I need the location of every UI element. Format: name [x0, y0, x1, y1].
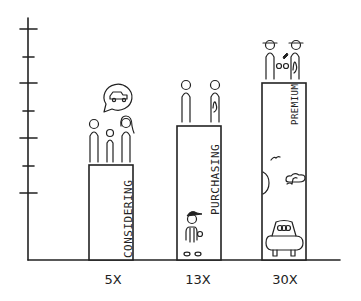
person-head-icon [211, 81, 220, 90]
person-body-icon [291, 53, 299, 79]
person-body-icon [211, 93, 219, 122]
couple-illustration [182, 81, 220, 123]
bar-label-considering: CONSIDERING [122, 180, 135, 258]
bar-considering: CONSIDERING [89, 165, 135, 260]
person-body-icon [122, 132, 130, 162]
hand-icon [293, 62, 297, 73]
premium-couple-illustration [263, 41, 303, 80]
x-tick-label-30x: 30X [272, 272, 298, 287]
glass-icon [284, 64, 289, 69]
child-body-icon [107, 140, 113, 162]
family-illustration [90, 84, 135, 162]
person-body-icon [182, 93, 190, 122]
bar-premium: PREMIUM [262, 83, 306, 260]
chart-canvas: CONSIDERING PURCHASING [0, 0, 361, 301]
bar-label-purchasing: PURCHASING [209, 144, 222, 215]
person-head-icon [122, 119, 131, 128]
person-head-icon [292, 41, 301, 50]
bar-label-premium: PREMIUM [290, 83, 300, 125]
x-tick-label-5x: 5X [104, 272, 121, 287]
person-head-icon [182, 81, 191, 90]
hand-icon [213, 102, 217, 112]
person-body-icon [266, 53, 274, 79]
glass-icon [277, 64, 282, 69]
person-head-icon [90, 120, 99, 129]
x-tick-label-13x: 13X [185, 272, 211, 287]
child-head-icon [107, 130, 114, 137]
person-head-icon [266, 41, 275, 50]
y-axis [20, 18, 37, 260]
bar-purchasing: PURCHASING [177, 126, 222, 260]
person-body-icon [90, 132, 98, 162]
bottle-icon [283, 53, 288, 59]
speech-bubble-icon [104, 84, 132, 112]
